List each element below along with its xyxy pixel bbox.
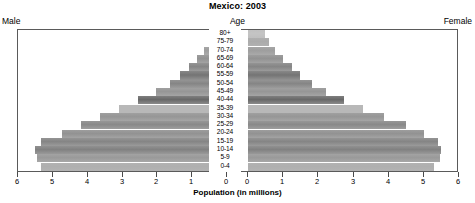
male-bar — [37, 154, 227, 162]
age-group-label: 0-4 — [209, 162, 241, 170]
female-bar — [248, 96, 344, 104]
female-bar — [248, 63, 292, 71]
age-group-label: 30-34 — [209, 112, 241, 120]
right-x-tick-label: 0 — [240, 177, 254, 186]
female-bar — [248, 138, 438, 146]
left-x-tick-label: 6 — [10, 177, 24, 186]
age-group-label: 5-9 — [209, 153, 241, 161]
female-bar — [248, 163, 434, 171]
age-group-label: 75-79 — [209, 37, 241, 45]
age-group-label: 70-74 — [209, 46, 241, 54]
male-bar — [41, 138, 227, 146]
age-group-label: 60-64 — [209, 62, 241, 70]
right-x-tick-label: 1 — [275, 177, 289, 186]
age-group-label: 80+ — [209, 29, 241, 37]
age-group-label: 35-39 — [209, 104, 241, 112]
left-x-tick-label: 4 — [80, 177, 94, 186]
age-group-label: 15-19 — [209, 137, 241, 145]
female-bar — [248, 121, 406, 129]
right-x-tick-label: 6 — [451, 177, 465, 186]
age-group-label: 20-24 — [209, 128, 241, 136]
age-group-label: 65-69 — [209, 54, 241, 62]
female-bar — [248, 88, 326, 96]
right-x-tick-label: 2 — [310, 177, 324, 186]
x-axis-title: Population (in millions) — [0, 188, 475, 197]
age-axis-title: Age — [0, 16, 475, 26]
left-x-tick-label: 2 — [149, 177, 163, 186]
male-bar — [35, 146, 227, 154]
female-bar — [248, 154, 440, 162]
female-bar — [248, 30, 265, 38]
male-bar — [41, 163, 227, 171]
female-bar — [248, 38, 269, 46]
age-group-label: 45-49 — [209, 87, 241, 95]
female-bar — [248, 146, 441, 154]
age-group-label: 40-44 — [209, 95, 241, 103]
left-x-tick-label: 5 — [45, 177, 59, 186]
female-bar — [248, 47, 275, 55]
male-bar — [81, 121, 227, 129]
male-bar — [100, 113, 227, 121]
age-group-label: 55-59 — [209, 70, 241, 78]
age-group-labels: 80+75-7970-7465-6960-6455-5950-5445-4940… — [209, 29, 241, 172]
right-x-tick-label: 5 — [416, 177, 430, 186]
right-x-tick-label: 4 — [381, 177, 395, 186]
female-bar — [248, 113, 384, 121]
age-group-label: 10-14 — [209, 145, 241, 153]
female-bar — [248, 80, 312, 88]
male-bars-panel — [18, 30, 227, 171]
population-pyramid-chart: Mexico: 2003 Male Female Age 80+75-7970-… — [0, 0, 475, 203]
female-bars-panel — [248, 30, 458, 171]
left-x-tick-label: 0 — [219, 177, 233, 186]
right-x-tick-label: 3 — [346, 177, 360, 186]
female-bar — [248, 55, 283, 63]
female-bar — [248, 71, 300, 79]
female-bar — [248, 105, 363, 113]
left-x-tick-label: 3 — [115, 177, 129, 186]
chart-title: Mexico: 2003 — [0, 1, 475, 11]
female-bar — [248, 130, 424, 138]
male-bar — [62, 130, 227, 138]
age-group-label: 25-29 — [209, 120, 241, 128]
age-group-label: 50-54 — [209, 79, 241, 87]
left-x-tick-label: 1 — [184, 177, 198, 186]
